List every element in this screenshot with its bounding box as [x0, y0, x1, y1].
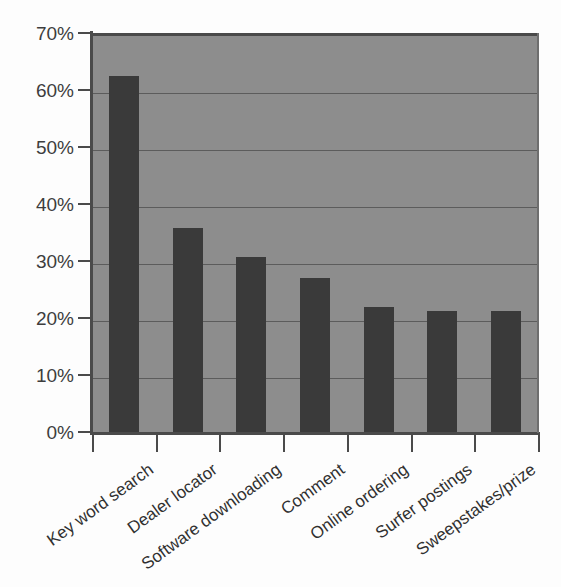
bar	[173, 228, 203, 435]
gridline	[92, 150, 538, 151]
y-axis-tick-label: 60%	[0, 81, 74, 100]
bar	[300, 278, 330, 435]
bar	[364, 307, 394, 435]
bar-chart: 0%10%20%30%40%50%60%70% Key word searchD…	[0, 0, 561, 587]
y-axis-tick-label: 40%	[0, 195, 74, 214]
bar	[109, 76, 139, 435]
bar	[427, 311, 457, 435]
y-axis-tick-label: 20%	[0, 309, 74, 328]
plot-area	[92, 33, 538, 435]
x-axis-category-labels: Key word searchDealer locatorSoftware do…	[0, 432, 561, 587]
y-axis-line	[90, 31, 93, 435]
y-axis-tick-label: 50%	[0, 138, 74, 157]
y-axis-tick-label: 10%	[0, 366, 74, 385]
y-axis-tick-label: 70%	[0, 24, 74, 43]
gridline	[92, 207, 538, 208]
gridline	[92, 264, 538, 265]
gridline	[92, 93, 538, 94]
bar	[491, 311, 521, 435]
plot-right-border	[537, 33, 539, 433]
y-axis-tick-label: 30%	[0, 252, 74, 271]
bar	[236, 257, 266, 435]
